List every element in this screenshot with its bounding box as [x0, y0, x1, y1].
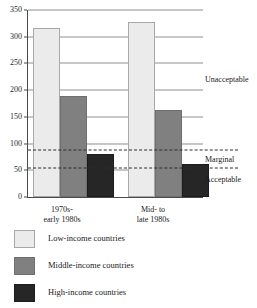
x-category-label-2: Mid- to late 1980s — [113, 205, 193, 224]
x-category-label-1-line1: 1970s- — [22, 205, 102, 215]
legend-item-middle-income: Middle-income countries — [14, 255, 134, 276]
legend-swatch-middle-income — [14, 257, 35, 275]
y-tick-label-150: 150 — [10, 113, 22, 121]
legend-label-middle-income: Middle-income countries — [48, 261, 134, 270]
bar-group2-low-income — [128, 22, 155, 197]
zone-label-marginal: Marginal — [205, 155, 234, 164]
plot-area: 0 50 100 150 200 250 300 350 — [0, 0, 257, 200]
x-category-label-1: 1970s- early 1980s — [22, 205, 102, 224]
legend-swatch-low-income — [14, 230, 35, 248]
x-category-label-2-line1: Mid- to — [113, 205, 193, 215]
legend-label-high-income: High-income countries — [48, 288, 126, 297]
y-tick-label-200: 200 — [10, 86, 22, 94]
threshold-line-acceptable — [28, 167, 238, 168]
x-category-label-1-line2: early 1980s — [22, 215, 102, 225]
y-tick-label-300: 300 — [10, 33, 22, 41]
y-tick-label-250: 250 — [10, 59, 22, 67]
bar-group1-high-income — [87, 154, 114, 197]
chart-legend: Low-income countries Middle-income count… — [0, 228, 257, 308]
legend-label-low-income: Low-income countries — [48, 234, 125, 243]
legend-item-high-income: High-income countries — [14, 282, 126, 303]
bar-group2-middle-income — [155, 110, 182, 197]
zone-label-unacceptable: Unacceptable — [205, 75, 249, 84]
bar-chart: 0 50 100 150 200 250 300 350 — [0, 0, 257, 308]
zone-label-acceptable: Acceptable — [205, 175, 241, 184]
bar-group1-middle-income — [60, 96, 87, 198]
y-tick-label-50: 50 — [14, 166, 22, 174]
y-tick-label-350: 350 — [10, 6, 22, 14]
y-axis: 0 50 100 150 200 250 300 350 — [0, 0, 24, 200]
bars-layer — [28, 10, 203, 197]
x-category-label-2-line2: late 1980s — [113, 215, 193, 225]
x-axis-line — [27, 197, 203, 198]
y-tick-label-100: 100 — [10, 140, 22, 148]
legend-item-low-income: Low-income countries — [14, 228, 125, 249]
threshold-line-marginal — [28, 149, 238, 150]
x-axis-category-labels: 1970s- early 1980s Mid- to late 1980s — [0, 200, 257, 226]
legend-swatch-high-income — [14, 284, 35, 302]
bar-group1-low-income — [33, 28, 60, 197]
